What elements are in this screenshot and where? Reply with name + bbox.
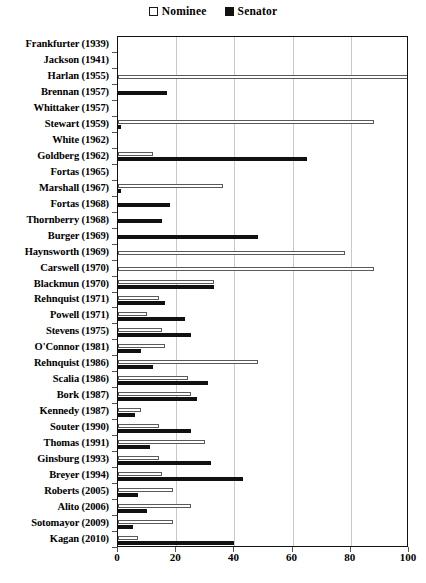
bar-row bbox=[118, 436, 407, 452]
bar-row bbox=[118, 261, 407, 277]
bar-row bbox=[118, 404, 407, 420]
legend-label-senator: Senator bbox=[238, 6, 278, 18]
legend-entry-nominee: Nominee bbox=[149, 6, 207, 18]
bar-senator bbox=[118, 493, 138, 497]
bar-nominee bbox=[118, 424, 159, 428]
y-axis-label: Roberts (2005) bbox=[44, 486, 109, 497]
bar-row bbox=[118, 37, 407, 53]
bar-senator bbox=[118, 203, 170, 207]
y-axis-label: Rehnquist (1986) bbox=[34, 358, 109, 369]
bar-nominee bbox=[118, 488, 173, 492]
bar-nominee bbox=[118, 328, 162, 332]
bar-row bbox=[118, 277, 407, 293]
nominee-swatch-icon bbox=[149, 7, 158, 16]
bar-row bbox=[118, 53, 407, 69]
y-axis-label: Rehnquist (1971) bbox=[34, 294, 109, 305]
y-axis-label: Whittaker (1957) bbox=[34, 103, 110, 114]
bar-row bbox=[118, 500, 407, 516]
y-axis-label: Burger (1969) bbox=[48, 231, 109, 242]
plot-area bbox=[117, 36, 408, 547]
bar-senator bbox=[118, 477, 243, 481]
bar-nominee bbox=[118, 120, 374, 124]
bar-senator bbox=[118, 349, 141, 353]
x-axis-label-100: 100 bbox=[400, 552, 417, 563]
y-axis-label: White (1962) bbox=[52, 135, 109, 146]
bar-nominee bbox=[118, 360, 258, 364]
bar-nominee bbox=[118, 440, 205, 444]
bar-senator bbox=[118, 219, 162, 223]
bar-nominee bbox=[118, 152, 153, 156]
bar-row bbox=[118, 356, 407, 372]
bar-row bbox=[118, 516, 407, 532]
bar-nominee bbox=[118, 504, 191, 508]
bar-senator bbox=[118, 285, 214, 289]
bar-senator bbox=[118, 365, 153, 369]
bar-row bbox=[118, 484, 407, 500]
y-axis-label: Jackson (1941) bbox=[44, 55, 109, 66]
x-axis-label-40: 40 bbox=[228, 552, 239, 563]
bar-senator bbox=[118, 541, 234, 545]
bar-senator bbox=[118, 445, 150, 449]
y-axis-label: Alito (2006) bbox=[57, 502, 109, 513]
y-axis-label: Marshall (1967) bbox=[39, 183, 109, 194]
bar-row bbox=[118, 165, 407, 181]
y-axis-label: Carswell (1970) bbox=[40, 263, 109, 274]
bar-rows bbox=[118, 37, 407, 546]
bar-row bbox=[118, 340, 407, 356]
legend-label-nominee: Nominee bbox=[162, 6, 207, 18]
bar-nominee bbox=[118, 267, 374, 271]
bar-row bbox=[118, 149, 407, 165]
bar-nominee bbox=[118, 520, 173, 524]
x-axis-labels: 020406080100 bbox=[0, 552, 426, 572]
bar-row bbox=[118, 69, 407, 85]
y-axis-label: Souter (1990) bbox=[50, 422, 109, 433]
y-axis-label: Stevens (1975) bbox=[46, 326, 109, 337]
y-axis-label: Sotomayor (2009) bbox=[31, 518, 109, 529]
x-axis-label-0: 0 bbox=[114, 552, 120, 563]
bar-row bbox=[118, 324, 407, 340]
bar-senator bbox=[118, 509, 147, 513]
y-axis-label: Harlan (1955) bbox=[48, 71, 109, 82]
y-axis-label: Kennedy (1987) bbox=[40, 406, 109, 417]
bar-nominee bbox=[118, 184, 223, 188]
y-axis-label: Goldberg (1962) bbox=[37, 151, 109, 162]
bar-senator bbox=[118, 381, 208, 385]
y-axis-label: Thornberry (1968) bbox=[26, 215, 109, 226]
bar-nominee bbox=[118, 296, 159, 300]
bar-row bbox=[118, 308, 407, 324]
bar-nominee bbox=[118, 456, 159, 460]
bar-senator bbox=[118, 189, 121, 193]
bar-nominee bbox=[118, 536, 138, 540]
bar-nominee bbox=[118, 376, 188, 380]
bar-nominee bbox=[118, 408, 141, 412]
bar-row bbox=[118, 388, 407, 404]
y-axis-label: Fortas (1968) bbox=[51, 199, 109, 210]
y-axis-labels: Frankfurter (1939)Jackson (1941)Harlan (… bbox=[0, 36, 113, 547]
bar-senator bbox=[118, 301, 165, 305]
y-axis-label: Haynsworth (1969) bbox=[25, 247, 109, 258]
bar-nominee bbox=[118, 392, 191, 396]
bar-senator bbox=[118, 525, 133, 529]
y-axis-label: O'Connor (1981) bbox=[35, 342, 109, 353]
x-axis-label-80: 80 bbox=[344, 552, 355, 563]
bar-row bbox=[118, 197, 407, 213]
y-axis-label: Fortas (1965) bbox=[51, 167, 109, 178]
y-axis-label: Bork (1987) bbox=[57, 390, 109, 401]
chart-root: Nominee Senator Frankfurter (1939)Jackso… bbox=[0, 0, 426, 583]
bar-row bbox=[118, 213, 407, 229]
chart-legend: Nominee Senator bbox=[0, 6, 426, 18]
bar-nominee bbox=[118, 280, 214, 284]
bar-row bbox=[118, 293, 407, 309]
bar-senator bbox=[118, 429, 191, 433]
bar-senator bbox=[118, 235, 258, 239]
bar-row bbox=[118, 101, 407, 117]
bar-row bbox=[118, 117, 407, 133]
y-axis-label: Powell (1971) bbox=[50, 310, 109, 321]
y-axis-label: Blackmun (1970) bbox=[34, 279, 109, 290]
y-axis-label: Kagan (2010) bbox=[50, 534, 109, 545]
bar-row bbox=[118, 245, 407, 261]
senator-swatch-icon bbox=[225, 7, 234, 16]
bar-nominee bbox=[118, 472, 162, 476]
y-axis-label: Stewart (1959) bbox=[45, 119, 109, 130]
bar-nominee bbox=[118, 312, 147, 316]
